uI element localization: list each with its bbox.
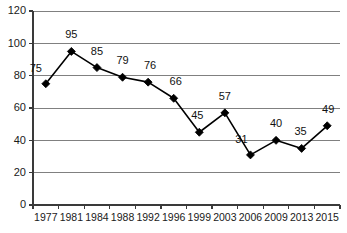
y-tick-labels: 020406080100120 xyxy=(8,4,26,210)
series-line xyxy=(46,51,327,154)
value-label-2006: 31 xyxy=(235,133,247,145)
y-axis xyxy=(29,11,33,205)
data-point-1992 xyxy=(144,78,152,86)
x-tick-label-2013: 2013 xyxy=(290,211,314,223)
data-point-1984 xyxy=(93,64,101,72)
x-tick-label-1992: 1992 xyxy=(136,211,160,223)
x-tick-label-2015: 2015 xyxy=(316,211,340,223)
value-label-1988: 79 xyxy=(116,54,128,66)
gridlines xyxy=(33,11,340,173)
line-chart: 020406080100120 197719811984198819921996… xyxy=(0,0,347,233)
x-tick-label-1999: 1999 xyxy=(188,211,212,223)
x-tick-label-2003: 2003 xyxy=(213,211,237,223)
y-tick-label-120: 120 xyxy=(8,4,26,16)
x-tick-label-1984: 1984 xyxy=(85,211,109,223)
value-label-1992: 76 xyxy=(144,59,156,71)
data-point-2006 xyxy=(246,151,254,159)
x-tick-label-2009: 2009 xyxy=(264,211,288,223)
y-tick-label-40: 40 xyxy=(14,134,26,146)
value-label-1996: 66 xyxy=(170,75,182,87)
x-tick-labels: 1977198119841988199219961999200320062009… xyxy=(34,211,339,223)
value-label-2009: 40 xyxy=(270,117,282,129)
value-label-2015: 49 xyxy=(322,103,334,115)
y-tick-label-0: 0 xyxy=(20,198,26,210)
data-point-labels: 759585797666455731403549 xyxy=(30,28,335,144)
x-tick-label-1981: 1981 xyxy=(60,211,84,223)
value-label-1999: 45 xyxy=(191,109,203,121)
y-tick-label-80: 80 xyxy=(14,69,26,81)
y-tick-label-100: 100 xyxy=(8,37,26,49)
x-axis xyxy=(33,205,340,209)
data-line xyxy=(46,51,327,154)
y-tick-label-20: 20 xyxy=(14,166,26,178)
x-tick-label-1977: 1977 xyxy=(34,211,58,223)
value-label-1977: 75 xyxy=(30,62,42,74)
data-markers xyxy=(42,47,331,158)
value-label-2013: 35 xyxy=(295,125,307,137)
data-point-1988 xyxy=(119,73,127,81)
chart-canvas: 020406080100120 197719811984198819921996… xyxy=(0,0,347,233)
data-point-2009 xyxy=(272,136,280,144)
x-tick-label-1996: 1996 xyxy=(162,211,186,223)
y-tick-label-60: 60 xyxy=(14,101,26,113)
value-label-2003: 57 xyxy=(219,90,231,102)
value-label-1984: 85 xyxy=(91,45,103,57)
x-tick-label-2006: 2006 xyxy=(239,211,263,223)
value-label-1981: 95 xyxy=(65,28,77,40)
x-tick-label-1988: 1988 xyxy=(111,211,135,223)
